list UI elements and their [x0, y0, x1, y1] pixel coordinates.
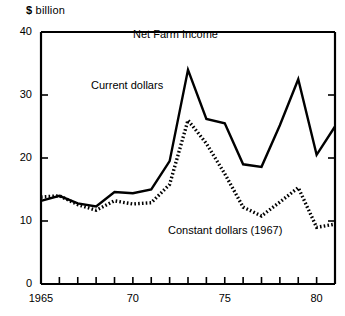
- y-axis-unit-label: $ billion: [26, 4, 65, 16]
- series-line-0: [41, 70, 335, 207]
- series-line-1: [41, 120, 335, 227]
- y-tick-label-20: 20: [6, 151, 32, 163]
- chart-title: Net Farm Income: [133, 28, 218, 40]
- y-axis-unit-symbol: $: [26, 4, 32, 16]
- y-tick-label-40: 40: [6, 25, 32, 37]
- y-tick-label-30: 30: [6, 88, 32, 100]
- constant-dollars-label: Constant dollars (1967): [168, 224, 282, 236]
- series-lines: [41, 70, 335, 228]
- plot-area: [0, 0, 345, 316]
- x-tick-label-1980: 80: [297, 292, 337, 304]
- y-axis-unit-word: billion: [36, 4, 66, 16]
- x-tick-label-1975: 75: [205, 292, 245, 304]
- x-tick-label-1970: 70: [113, 292, 153, 304]
- x-tick-label-1965: 1965: [21, 292, 61, 304]
- y-tick-label-10: 10: [6, 214, 32, 226]
- net-farm-income-chart: $ billion Net Farm Income Current dollar…: [0, 0, 345, 316]
- y-tick-label-0: 0: [6, 277, 32, 289]
- current-dollars-label: Current dollars: [91, 79, 163, 91]
